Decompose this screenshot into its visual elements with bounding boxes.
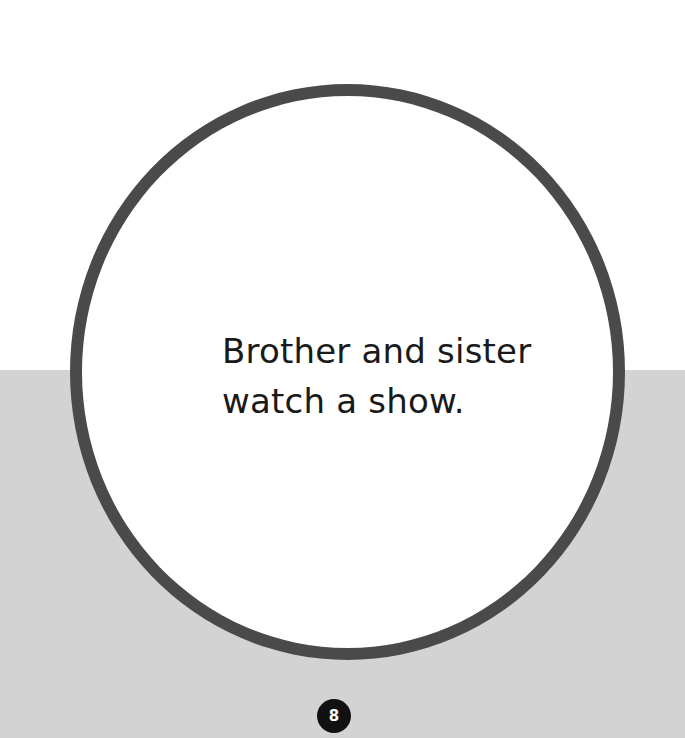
page-text: Brother and sister watch a show.: [222, 326, 531, 426]
text-line-2: watch a show.: [222, 376, 531, 426]
page-number-badge: 8: [317, 699, 351, 733]
text-line-1: Brother and sister: [222, 326, 531, 376]
